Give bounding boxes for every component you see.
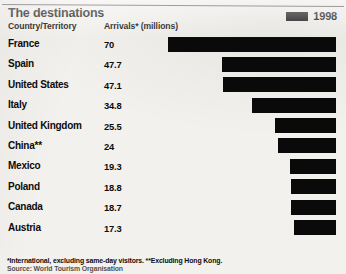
footnote-source: Source: World Tourism Organisation xyxy=(7,265,327,274)
header-block: The destinations xyxy=(8,7,104,20)
legend-label: 1998 xyxy=(313,10,337,22)
chart-row: Italy34.8 xyxy=(0,96,346,116)
row-country-label: Spain xyxy=(8,58,34,69)
row-bar xyxy=(291,200,336,215)
row-value-label: 17.3 xyxy=(104,223,121,234)
row-bar xyxy=(294,220,336,235)
footnote-block: *International, excluding same-day visit… xyxy=(7,257,327,274)
chart-row: China**24 xyxy=(0,137,346,157)
row-country-label: Austria xyxy=(8,222,41,233)
row-bar xyxy=(290,159,336,174)
row-value-label: 24 xyxy=(104,141,114,152)
column-header-country: Country/Territory xyxy=(8,21,76,31)
chart-legend: 1998 xyxy=(286,10,337,22)
column-header-arrivals: Arrivals* (millions) xyxy=(104,21,178,31)
row-value-label: 19.3 xyxy=(104,161,121,172)
chart-row: France70 xyxy=(0,35,346,55)
footnote-note: *International, excluding same-day visit… xyxy=(7,257,327,266)
row-country-label: Italy xyxy=(8,99,27,110)
chart-row: Austria17.3 xyxy=(0,219,346,239)
row-value-label: 70 xyxy=(104,39,114,50)
row-country-label: Mexico xyxy=(8,160,40,171)
row-value-label: 18.7 xyxy=(104,202,121,213)
row-country-label: France xyxy=(8,38,39,49)
chart-row: Mexico19.3 xyxy=(0,157,346,177)
chart-row: Canada18.7 xyxy=(0,198,346,218)
legend-swatch-icon xyxy=(286,12,308,21)
row-bar xyxy=(278,138,336,153)
chart-row: Poland18.8 xyxy=(0,178,346,198)
row-country-label: Poland xyxy=(8,181,40,192)
chart-figure: The destinations Country/Territory Arriv… xyxy=(0,0,346,274)
row-value-label: 25.5 xyxy=(104,121,121,132)
chart-title: The destinations xyxy=(8,7,104,20)
row-bar xyxy=(222,57,336,72)
row-bar xyxy=(168,37,336,52)
chart-rows: France70Spain47.7United States47.1Italy3… xyxy=(0,35,346,239)
row-country-label: United States xyxy=(8,79,69,90)
row-country-label: United Kingdom xyxy=(8,120,82,131)
row-country-label: China** xyxy=(8,140,42,151)
row-value-label: 34.8 xyxy=(104,100,121,111)
row-bar xyxy=(252,98,336,113)
row-value-label: 18.8 xyxy=(104,182,121,193)
chart-row: United States47.1 xyxy=(0,76,346,96)
chart-row: United Kingdom25.5 xyxy=(0,117,346,137)
row-value-label: 47.7 xyxy=(104,59,121,70)
chart-row: Spain47.7 xyxy=(0,55,346,75)
row-bar xyxy=(291,179,336,194)
row-bar xyxy=(223,77,336,92)
row-country-label: Canada xyxy=(8,201,43,212)
row-bar xyxy=(275,118,336,133)
row-value-label: 47.1 xyxy=(104,80,121,91)
